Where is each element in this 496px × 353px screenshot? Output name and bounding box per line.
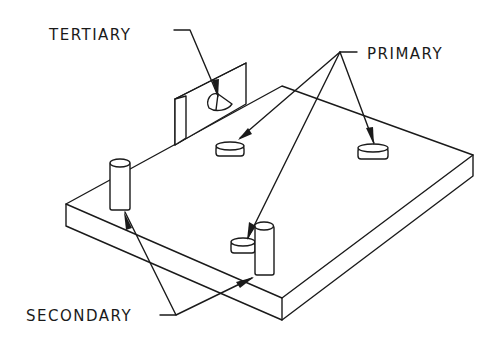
tertiary-label: TERTIARY [48, 26, 131, 44]
secondary-pin-2 [255, 222, 275, 275]
primary-locator-3 [231, 238, 255, 253]
primary-label: PRIMARY [367, 45, 443, 63]
fixture-diagram: TERTIARY PRIMARY SECONDARY [0, 0, 496, 353]
primary-locator-1 [216, 142, 244, 156]
secondary-label: SECONDARY [26, 307, 132, 325]
secondary-pin-1 [110, 159, 130, 210]
primary-locator-2 [358, 144, 388, 159]
